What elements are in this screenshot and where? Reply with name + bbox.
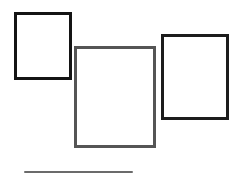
horizontal-line [24,171,133,173]
rectangle-left [14,12,72,80]
rectangle-right [161,34,229,120]
diagram-canvas [0,0,240,177]
rectangle-center [74,46,156,148]
